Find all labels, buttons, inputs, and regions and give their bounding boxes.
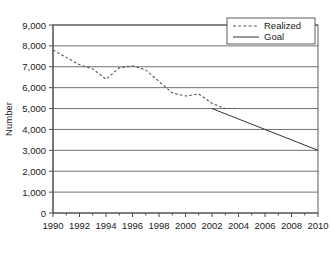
line-chart: 01,0002,0003,0004,0005,0006,0007,0008,00… <box>0 0 331 254</box>
y-tick-label: 6,000 <box>22 82 46 93</box>
y-tick-label: 5,000 <box>22 103 46 114</box>
y-axis-ticks: 01,0002,0003,0004,0005,0006,0007,0008,00… <box>22 20 53 219</box>
chart-legend: Realized Goal <box>227 18 315 44</box>
y-tick-label: 7,000 <box>22 61 46 72</box>
x-tick-label: 1996 <box>122 220 143 231</box>
x-tick-label: 2002 <box>201 220 222 231</box>
legend-label-realized: Realized <box>264 20 301 31</box>
y-axis-title: Number <box>3 102 14 136</box>
x-tick-label: 2006 <box>254 220 275 231</box>
y-tick-label: 1,000 <box>22 187 46 198</box>
plot-area-background <box>53 25 318 213</box>
y-tick-label: 4,000 <box>22 124 46 135</box>
y-tick-label: 2,000 <box>22 166 46 177</box>
x-tick-label: 1994 <box>95 220 116 231</box>
y-tick-label: 9,000 <box>22 20 46 31</box>
y-tick-label: 3,000 <box>22 145 46 156</box>
x-tick-label: 2004 <box>228 220 249 231</box>
x-tick-label: 1992 <box>69 220 90 231</box>
x-tick-label: 2008 <box>281 220 302 231</box>
y-tick-label: 8,000 <box>22 40 46 51</box>
y-tick-label: 0 <box>41 208 46 219</box>
x-tick-label: 1998 <box>148 220 169 231</box>
x-tick-label: 2000 <box>175 220 196 231</box>
x-tick-label: 1990 <box>42 220 63 231</box>
x-axis-ticks: 1990199219941996199820002002200420062008… <box>42 213 328 231</box>
chart-container: 01,0002,0003,0004,0005,0006,0007,0008,00… <box>0 0 331 254</box>
x-tick-label: 2010 <box>307 220 328 231</box>
legend-label-goal: Goal <box>264 31 284 42</box>
